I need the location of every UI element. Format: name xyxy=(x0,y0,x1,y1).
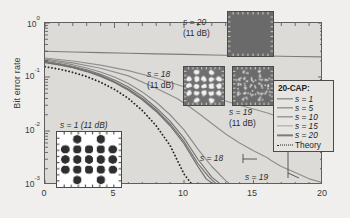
inset-s1 xyxy=(56,131,122,188)
constellation-canvas xyxy=(184,67,224,105)
y-tick-label-1e-2: 10-2 xyxy=(0,123,40,135)
inset-s18-label-line2: (11 dB) xyxy=(147,80,174,90)
y-tick-exponent: 0 xyxy=(37,14,40,21)
inset-s19-label: s = 19 (11 dB) xyxy=(229,107,256,128)
constellation-canvas xyxy=(228,12,273,56)
legend-swatch-s5 xyxy=(277,104,293,112)
legend-title: 20-CAP: xyxy=(278,83,330,93)
y-tick-label-1e-1: 10-1 xyxy=(0,69,40,81)
constellation-canvas xyxy=(233,67,273,105)
y-tick-mantissa: 10 xyxy=(27,19,36,29)
inset-s19-label-line1: s = 19 xyxy=(229,107,252,117)
x-tick-label-15: 15 xyxy=(242,188,262,198)
legend-swatch-s1 xyxy=(277,95,293,103)
inset-s1-label: s = 1 (11 dB) xyxy=(60,120,108,131)
inset-s20-label-line1: s = 20 xyxy=(183,17,206,27)
inset-s20-label-line2: (11 dB) xyxy=(183,28,210,38)
figure: Bit error rate 100 10-1 10-2 10-3 0 5 10… xyxy=(0,0,350,218)
x-tick-label-5: 5 xyxy=(103,188,123,198)
inset-s18 xyxy=(183,66,225,106)
x-tick-label-0: 0 xyxy=(34,188,54,198)
inset-s19 xyxy=(232,66,274,106)
y-axis-label: Bit error rate xyxy=(12,38,22,128)
legend-swatch-s20 xyxy=(277,131,293,139)
inset-s20 xyxy=(227,11,274,57)
y-tick-exponent: -1 xyxy=(34,66,40,73)
legend-label-theory: Theory xyxy=(295,140,321,150)
constellation-canvas xyxy=(57,132,121,187)
y-tick-exponent: -2 xyxy=(34,120,40,127)
inset-s18-label-line1: s = 18 xyxy=(147,69,170,79)
inset-s20-label: s = 20 (11 dB) xyxy=(183,17,210,38)
legend-swatch-s15 xyxy=(277,122,293,130)
inset-s19-label-line2: (11 dB) xyxy=(229,118,256,128)
x-tick-label-10: 10 xyxy=(173,188,193,198)
x-tick-label-20: 20 xyxy=(312,188,332,198)
legend: 20-CAP: s = 1 s = 5 s = 10 s = 15 s = 20… xyxy=(273,80,334,152)
legend-swatch-theory xyxy=(277,141,293,149)
y-tick-label-1e0: 100 xyxy=(0,17,40,29)
legend-swatch-s10 xyxy=(277,113,293,121)
legend-item-theory[interactable]: Theory xyxy=(277,140,330,149)
curve-annotation-s18: s = 18 xyxy=(200,153,223,164)
inset-s18-label: s = 18 (11 dB) xyxy=(147,69,174,90)
curve-annotation-s19: s = 19 xyxy=(245,172,268,183)
y-tick-exponent: -3 xyxy=(34,174,40,181)
